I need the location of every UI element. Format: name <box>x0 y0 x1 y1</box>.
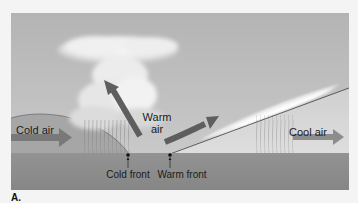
cold-front-label: Cold front <box>106 170 149 180</box>
rain-cold-front <box>84 120 132 154</box>
cold-air-label: Cold air <box>16 125 54 136</box>
warm-air-label-line2: air <box>151 124 163 135</box>
warm-air-label-line1: Warm <box>143 112 172 123</box>
panel-label: A. <box>11 192 21 203</box>
cool-air-label: Cool air <box>289 127 327 138</box>
warm-front-label: Warm front <box>157 170 206 180</box>
